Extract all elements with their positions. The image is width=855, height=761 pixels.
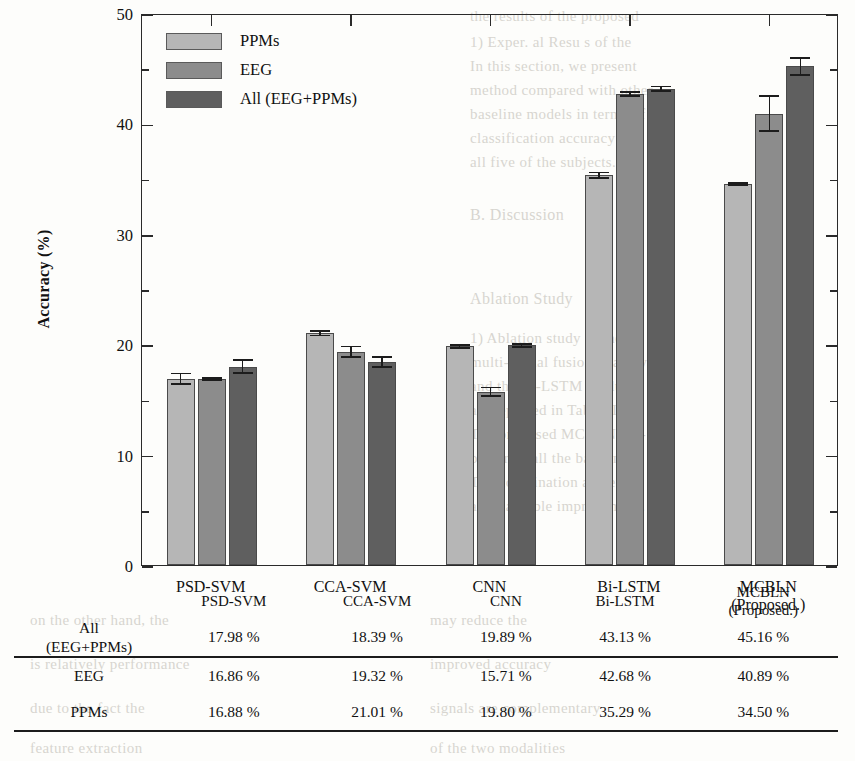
bar — [755, 114, 783, 565]
error-bar-cap — [233, 372, 253, 374]
y-axis-tick-label: 30 — [117, 226, 134, 246]
table-row-header-line-1: PPMs — [14, 703, 164, 722]
error-bar-cap — [512, 346, 532, 348]
table-row: All(EEG+PPMs)17.98 %18.39 %19.89 %43.13 … — [14, 619, 838, 657]
table-cell: 45.16 % — [689, 619, 838, 657]
y-axis-title: Accuracy (%) — [35, 199, 53, 359]
error-bar-cap — [589, 172, 609, 174]
error-bar-cap — [512, 343, 532, 345]
results-table-container: PSD-SVMCCA-SVMCNNBi-LSTMMCBLN(Proposed.)… — [0, 583, 855, 761]
error-bar — [337, 346, 365, 358]
error-bar-cap — [202, 379, 222, 381]
error-bar — [368, 356, 396, 368]
table-column-header-line-1: MCBLN — [689, 583, 838, 601]
table-column-header-line-1: Bi-LSTM — [561, 592, 688, 610]
table-row-header: All(EEG+PPMs) — [14, 619, 164, 657]
bar — [446, 346, 474, 565]
error-bar-cap — [589, 177, 609, 179]
table-cell: 21.01 % — [304, 694, 451, 731]
error-bar-cap — [759, 130, 779, 132]
error-bar-cap — [341, 356, 361, 358]
table-bottom-rule — [14, 731, 838, 734]
bar — [167, 379, 195, 565]
y-axis-tick-label: 40 — [117, 115, 134, 135]
bar — [724, 184, 752, 565]
bar — [198, 379, 226, 565]
error-bar — [306, 330, 334, 337]
table-header-row: PSD-SVMCCA-SVMCNNBi-LSTMMCBLN(Proposed.) — [14, 583, 838, 619]
error-bar — [446, 344, 474, 349]
error-bar-cap — [620, 95, 640, 97]
results-table: PSD-SVMCCA-SVMCNNBi-LSTMMCBLN(Proposed.)… — [14, 583, 838, 734]
table-column-header-line-1: CCA-SVM — [304, 592, 451, 610]
error-bar-cap — [310, 330, 330, 332]
table-cell: 19.80 % — [450, 694, 561, 731]
error-bar-cap — [233, 359, 253, 361]
error-bar — [508, 343, 536, 348]
table-cell: 19.89 % — [450, 619, 561, 657]
table-cell: 16.88 % — [164, 694, 304, 731]
bar — [786, 66, 814, 565]
bar — [508, 345, 536, 565]
legend-swatch — [166, 33, 222, 50]
y-axis-major-tick — [142, 566, 153, 568]
table-row-header: PPMs — [14, 694, 164, 731]
legend-label: PPMs — [240, 31, 279, 51]
error-bar — [647, 86, 675, 93]
bar — [616, 94, 644, 565]
table-cell: 35.29 % — [561, 694, 688, 731]
table-column-header-line-1: PSD-SVM — [164, 592, 304, 610]
legend-item: All (EEG+PPMs) — [166, 89, 357, 109]
table-row-header-line-2: (EEG+PPMs) — [14, 638, 164, 657]
legend-swatch — [166, 91, 222, 108]
error-bar-cap — [481, 395, 501, 397]
error-bar — [616, 91, 644, 97]
bar — [585, 175, 613, 565]
table-cell: 42.68 % — [561, 657, 688, 694]
legend-item: EEG — [166, 60, 357, 80]
error-bar-cap — [450, 347, 470, 349]
bar — [306, 333, 334, 565]
error-bar — [229, 359, 257, 374]
y-axis-tick-label: 10 — [117, 447, 134, 467]
error-bar-cap — [790, 74, 810, 76]
error-bar — [724, 182, 752, 186]
error-bar-cap — [372, 356, 392, 358]
y-axis-major-tick — [826, 566, 837, 568]
table-corner-cell — [14, 583, 164, 619]
y-axis-tick-label: 50 — [117, 5, 134, 25]
table-column-header: CCA-SVM — [304, 583, 451, 619]
error-bar-cap — [481, 387, 501, 389]
error-bar-cap — [620, 91, 640, 93]
table-column-header: PSD-SVM — [164, 583, 304, 619]
table-cell: 18.39 % — [304, 619, 451, 657]
error-bar — [167, 373, 195, 385]
error-bar-cap — [171, 383, 191, 385]
legend-label: All (EEG+PPMs) — [240, 89, 357, 109]
table-column-header: CNN — [450, 583, 561, 619]
table-row-header-line-1: EEG — [14, 667, 164, 686]
error-bar-cap — [790, 57, 810, 59]
table-cell: 17.98 % — [164, 619, 304, 657]
error-bar-cap — [651, 90, 671, 92]
bar — [337, 352, 365, 565]
table-cell: 15.71 % — [450, 657, 561, 694]
error-bar — [755, 95, 783, 131]
legend-label: EEG — [240, 60, 272, 80]
table-column-header: MCBLN(Proposed.) — [689, 583, 838, 619]
table-column-header-line-1: CNN — [450, 592, 561, 610]
table-cell: 43.13 % — [561, 619, 688, 657]
table-row: PPMs16.88 %21.01 %19.80 %35.29 %34.50 % — [14, 694, 838, 731]
table-bottom-rule-cell — [14, 731, 838, 734]
table-column-header: Bi-LSTM — [561, 583, 688, 619]
error-bar-stem — [800, 57, 802, 76]
bar — [368, 362, 396, 565]
error-bar-cap — [759, 95, 779, 97]
bar — [647, 89, 675, 565]
chart-legend: PPMsEEGAll (EEG+PPMs) — [166, 31, 357, 118]
plot-area: 01020304050 PPMsEEGAll (EEG+PPMs) — [141, 14, 838, 566]
error-bar-cap — [171, 373, 191, 375]
table-row-header-line-1: All — [14, 619, 164, 638]
table-cell: 19.32 % — [304, 657, 451, 694]
legend-item: PPMs — [166, 31, 357, 51]
